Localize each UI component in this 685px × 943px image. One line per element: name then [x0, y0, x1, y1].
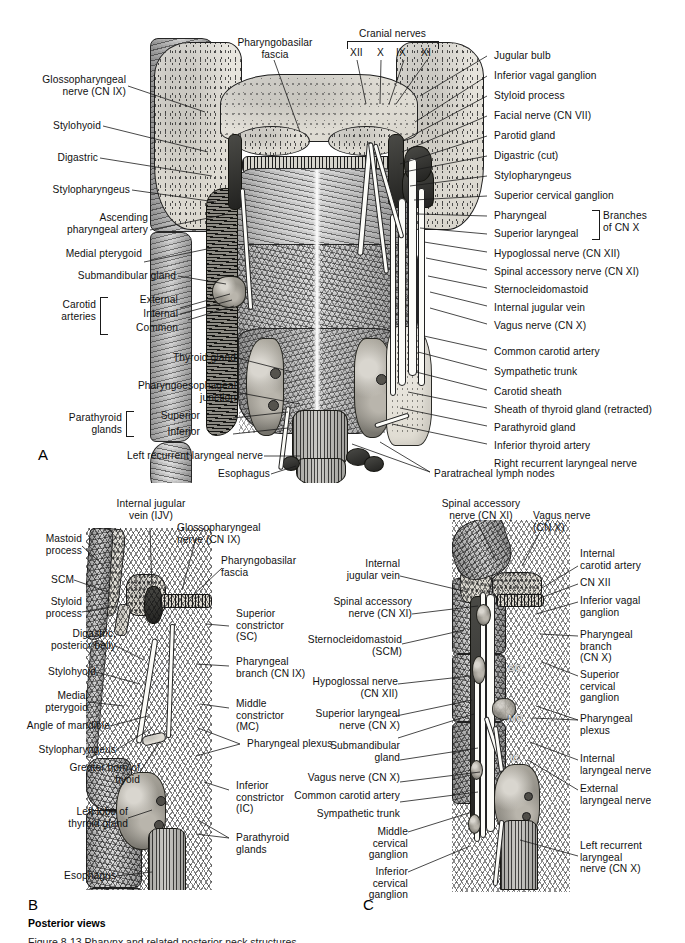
label-jugular-bulb: Jugular bulb — [494, 50, 551, 62]
label-spinal-accessory-nerve-c: Spinal accessory nerve (CN XI) — [286, 596, 412, 619]
label-digastric-posterior-belly-b: Digastric, posterior belly — [4, 628, 116, 651]
inferior-vagal-ganglion-c — [476, 604, 491, 626]
label-vagus-nerve-top-c: Vagus nerve (CN X) — [533, 510, 591, 533]
label-internal-jugular-vein-c: Internal jugular vein — [296, 558, 400, 581]
panel-c-artwork: SC MC IC — [452, 520, 570, 892]
submandibular-gland-a — [212, 276, 246, 308]
label-superior-constrictor-b: Superior constrictor (SC) — [236, 608, 284, 643]
label-sternocleidomastoid-a: Sternocleidomastoid — [494, 284, 588, 296]
label-carotid-common: Common — [110, 322, 178, 334]
label-parathyroid-glands-b: Parathyroid glands — [236, 832, 289, 855]
label-vagus-nerve-a: Vagus nerve (CN X) — [494, 320, 586, 332]
cnx-bracket — [592, 210, 600, 240]
occipital-condyle-left — [234, 126, 310, 156]
label-hypoglossal-nerve-c: Hypoglossal nerve (CN XII) — [286, 676, 398, 699]
label-stylopharyngeus-right-a: Stylopharyngeus — [494, 170, 571, 182]
vagus-nerve-c — [480, 592, 486, 838]
esophagus-a — [296, 458, 346, 483]
label-superior-cervical-ganglion-a: Superior cervical ganglion — [494, 190, 614, 202]
paratracheal-lymph-node-3 — [282, 456, 300, 471]
label-inferior-vagal-ganglion-a: Inferior vagal ganglion — [494, 70, 597, 82]
cn-tick-ix: IX — [396, 47, 406, 59]
label-paratracheal-lymph-nodes-a: Paratracheal lymph nodes — [434, 468, 555, 480]
label-inferior-thyroid-artery-a: Inferior thyroid artery — [494, 440, 590, 452]
label-pharyngeal-plexus-c: Pharyngeal plexus — [580, 713, 633, 736]
middle-cervical-ganglion-c — [470, 760, 483, 780]
label-submandibular-gland-c: Submandibular gland — [296, 740, 400, 763]
label-parathyroid-glands-title: Parathyroid glands — [26, 412, 122, 435]
label-hypoglossal-nerve-a: Hypoglossal nerve (CN XII) — [494, 248, 620, 260]
label-parathyroid-gland-right-a: Parathyroid gland — [494, 422, 576, 434]
carotid-bracket — [100, 297, 108, 335]
label-greater-horn-hyoid-b: Greater horn of hyoid — [4, 762, 140, 785]
label-glossopharyngeal-nerve-b: Glossopharyngeal nerve (CN IX) — [177, 522, 261, 545]
label-common-carotid-artery-c: Common carotid artery — [268, 790, 400, 802]
cn-tick-xi: XI — [421, 47, 431, 59]
inline-label-ic: IC — [510, 752, 520, 763]
figure-anatomy-pharynx: SC MC IC — [0, 0, 685, 943]
label-pharyngoesophageal-junction-a: Pharyngoesophageal junction — [8, 380, 236, 403]
panel-letter-a: A — [38, 446, 48, 463]
label-external-laryngeal-nerve-c: External laryngeal nerve — [580, 783, 651, 806]
label-submandibular-gland-a: Submandibular gland — [8, 270, 176, 282]
label-internal-jugular-vein-a: Internal jugular vein — [494, 302, 585, 314]
vagus-nerve-a — [418, 188, 425, 386]
label-medial-pterygoid-b: Medial pterygoid — [4, 690, 88, 713]
label-middle-constrictor-b: Middle constrictor (MC) — [236, 698, 284, 733]
panel-b-artwork — [86, 528, 212, 890]
label-superior-laryngeal-nerve-c: Superior laryngeal nerve (CN X) — [286, 708, 400, 731]
label-carotid-arteries-title: Carotid arteries — [26, 299, 96, 322]
label-scm-b: SCM — [4, 574, 74, 586]
label-inferior-vagal-ganglion-c: Inferior vagal ganglion — [580, 595, 640, 618]
label-styloid-process-b: Styloid process — [4, 596, 82, 619]
esophagus-c — [500, 820, 538, 890]
label-stylohyoid-b: Stylohyoid — [4, 666, 96, 678]
parathyroid-superior-c — [524, 792, 533, 801]
label-left-lobe-thyroid-gland-b: Left lobe of thyroid gland — [4, 806, 128, 829]
label-middle-cervical-ganglion-c: Middle cervical ganglion — [320, 826, 408, 861]
condyle-stipple-left — [235, 127, 309, 155]
label-sympathetic-trunk-a: Sympathetic trunk — [494, 366, 577, 378]
label-ascending-pharyngeal-artery-a: Ascending pharyngeal artery — [8, 212, 148, 235]
label-pharyngobasilar-fascia-b: Pharyngobasilar fascia — [221, 555, 296, 578]
panel-letter-b: B — [28, 896, 38, 913]
inferior-cervical-ganglion-c — [468, 814, 481, 834]
label-cn-xii-c: CN XII — [580, 577, 611, 589]
label-carotid-sheath-a: Carotid sheath — [494, 386, 562, 398]
label-internal-laryngeal-nerve-c: Internal laryngeal nerve — [580, 753, 651, 776]
cranial-nerves-header: Cranial nerves — [335, 28, 450, 40]
label-styloid-process-a: Styloid process — [494, 90, 565, 102]
label-facial-nerve-a: Facial nerve (CN VII) — [494, 110, 591, 122]
inline-label-sc: SC — [508, 662, 522, 673]
label-left-recurrent-laryngeal-nerve-c: Left recurrent laryngeal nerve (CN X) — [580, 840, 642, 875]
label-internal-carotid-artery-c: Internal carotid artery — [580, 548, 641, 571]
superior-cervical-ganglion-c — [472, 656, 486, 684]
label-vagus-nerve-c: Vagus nerve (CN X) — [278, 772, 400, 784]
parathyroid-inferior-a — [268, 400, 279, 411]
label-stylopharyngeus-a: Stylopharyngeus — [8, 184, 130, 196]
figure-caption-cut: Figure 8-13 Pharynx and related posterio… — [28, 936, 588, 943]
label-sternocleidomastoid-c: Sternocleidomastoid (SCM) — [278, 634, 402, 657]
label-parotid-gland-a: Parotid gland — [494, 130, 555, 142]
panel-a-artwork — [150, 38, 485, 483]
label-carotid-internal: Internal — [110, 308, 178, 320]
parathyroid-bracket — [126, 411, 134, 437]
esophagus-b — [148, 828, 186, 890]
label-internal-jugular-vein-b: Internal jugular vein (IJV) — [90, 498, 212, 521]
label-digastric-cut-a: Digastric (cut) — [494, 150, 558, 162]
label-pharyngobasilar-fascia-a: Pharyngobasilar fascia — [205, 37, 345, 60]
label-superior-cervical-ganglion-c: Superior cervical ganglion — [580, 669, 619, 704]
internal-jugular-vein-a — [408, 158, 417, 376]
label-pharyngeal-branch-cn-x-c: Pharyngeal branch (CN X) — [580, 629, 633, 664]
inline-label-mc: MC — [508, 712, 523, 723]
panel-letter-c: C — [363, 896, 374, 913]
label-parathyroid-inferior: Inferior — [136, 426, 200, 438]
label-sheath-thyroid-gland-a: Sheath of thyroid gland (retracted) — [494, 404, 652, 416]
sympathetic-trunk-a — [390, 214, 396, 396]
label-esophagus-b: Esophagus — [4, 870, 116, 882]
label-spinal-accessory-nerve-a: Spinal accessory nerve (CN XI) — [494, 266, 639, 278]
label-digastric-a: Digastric — [8, 152, 98, 164]
label-thyroid-gland-a: Thyroid gland — [8, 352, 236, 364]
figure-caption-posterior-views: Posterior views — [28, 917, 106, 929]
label-cnx-branches-title: Branches of CN X — [603, 210, 647, 233]
